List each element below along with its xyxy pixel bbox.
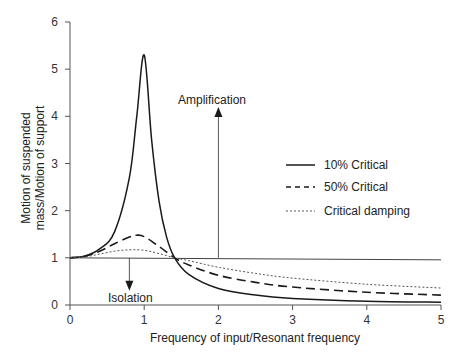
amplification-label: Amplification: [178, 93, 246, 107]
y-axis-title-line2: mass/Motion of support: [33, 105, 47, 230]
y-tick-label: 5: [51, 62, 58, 76]
y-tick-label: 3: [51, 157, 58, 171]
x-tick-label: 1: [141, 313, 148, 327]
arrowhead-icon: [214, 107, 222, 117]
y-tick-label: 2: [51, 204, 58, 218]
y-axis-title-line1: Motion of suspended: [19, 112, 33, 223]
x-tick-label: 5: [438, 313, 445, 327]
x-tick-label: 2: [215, 313, 222, 327]
legend-label-10pct: 10% Critical: [324, 158, 388, 172]
legend-label-50pct: 50% Critical: [324, 180, 388, 194]
series-solid: [70, 55, 441, 302]
annotations: Amplification Isolation: [108, 93, 246, 305]
x-tick-label: 4: [363, 313, 370, 327]
x-tick-label: 3: [289, 313, 296, 327]
isolation-label: Isolation: [108, 291, 153, 305]
y-tick-label: 4: [51, 109, 58, 123]
curves: [70, 55, 441, 302]
series-dashed: [70, 235, 441, 295]
damping-chart: 0123456012345 Amplification Isolation 10…: [0, 0, 458, 357]
x-tick-label: 0: [67, 313, 74, 327]
y-tick-label: 6: [51, 15, 58, 29]
legend: 10% Critical 50% Critical Critical dampi…: [286, 158, 410, 218]
y-axis-title: Motion of suspended mass/Motion of suppo…: [19, 105, 47, 230]
legend-label-critical: Critical damping: [324, 204, 410, 218]
y-tick-label: 0: [51, 298, 58, 312]
reference-line-1: [70, 258, 441, 260]
y-tick-label: 1: [51, 251, 58, 265]
x-axis-title: Frequency of input/Resonant frequency: [150, 331, 360, 345]
arrowhead-icon: [125, 281, 133, 291]
